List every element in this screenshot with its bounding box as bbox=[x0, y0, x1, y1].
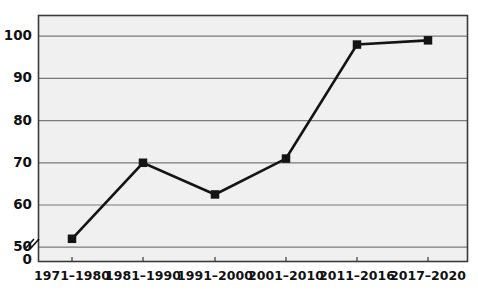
data-point-marker-0 bbox=[68, 235, 77, 244]
x-axis-label-5: 2017–2020 bbox=[390, 268, 466, 283]
data-point-marker-3 bbox=[282, 154, 291, 163]
data-point-marker-2 bbox=[211, 190, 220, 199]
x-axis-tick-labels: 1971–19801981–19901991–20002001–20102011… bbox=[34, 268, 466, 283]
data-point-marker-4 bbox=[353, 40, 362, 49]
y-axis-label-100: 100 bbox=[4, 27, 32, 43]
plot-area-background bbox=[38, 15, 468, 262]
data-point-marker-5 bbox=[424, 36, 433, 45]
y-axis-label-80: 80 bbox=[13, 112, 32, 128]
y-axis-zero-label: 0 bbox=[23, 251, 32, 267]
line-chart: 5060708090100 0 1971–19801981–19901991–2… bbox=[0, 0, 478, 292]
y-axis-label-60: 60 bbox=[13, 196, 32, 212]
data-point-marker-1 bbox=[139, 159, 148, 168]
x-axis-label-3: 2001–2010 bbox=[248, 268, 324, 283]
x-axis-label-4: 2011–2016 bbox=[319, 268, 395, 283]
x-axis-label-2: 1991–2000 bbox=[177, 268, 253, 283]
y-axis-label-70: 70 bbox=[13, 154, 32, 170]
x-axis-label-1: 1981–1990 bbox=[105, 268, 181, 283]
chart-svg: 5060708090100 0 1971–19801981–19901991–2… bbox=[0, 0, 478, 292]
y-axis-label-90: 90 bbox=[13, 69, 32, 85]
x-axis-label-0: 1971–1980 bbox=[34, 268, 110, 283]
